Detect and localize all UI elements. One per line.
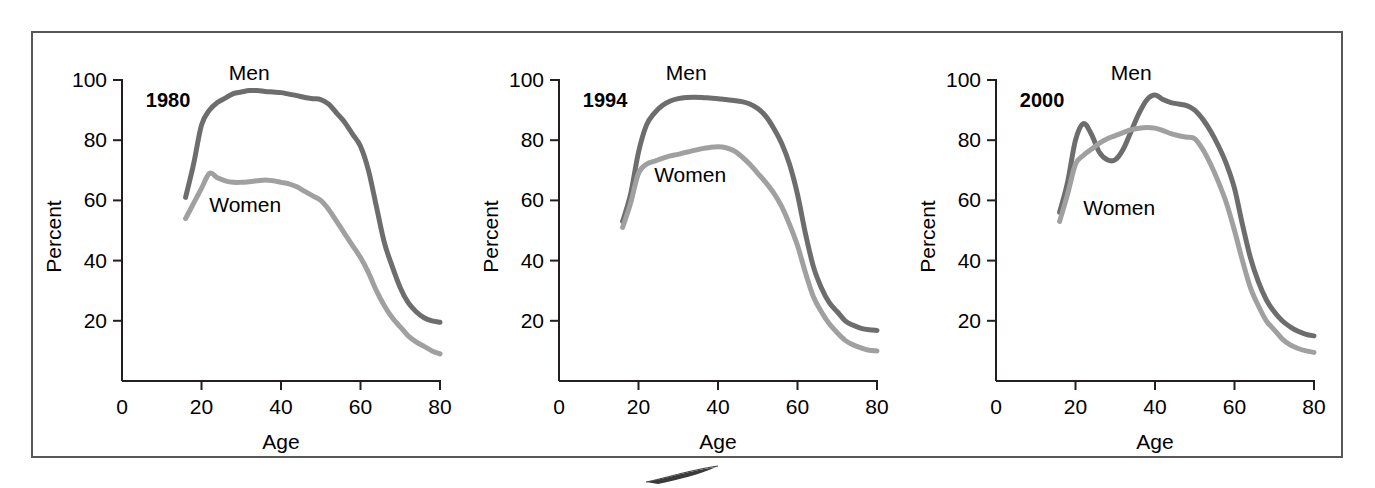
svg-text:60: 60 [1223,395,1246,418]
svg-text:20: 20 [190,395,213,418]
sr-summary: 1980 Percent vs Age: Men, Women | 1994 P… [0,0,1,1]
x-axis-label: Age [699,430,736,453]
svg-text:100: 100 [72,68,107,91]
y-axis-ticks: 20406080100 [509,68,559,332]
svg-text:0: 0 [990,395,1002,418]
svg-text:40: 40 [958,249,981,272]
chart-svg-2000: 20406080100020406080AgePercentMenWomen20… [905,31,1342,458]
legend-label-women: Women [1083,196,1155,219]
legend-label-men: Men [1111,61,1152,84]
y-axis-ticks: 20406080100 [946,68,996,332]
y-axis-label: Percent [916,200,939,273]
x-axis-ticks: 020406080 [116,381,452,418]
chart-panel-1994: 20406080100020406080AgePercentMenWomen19… [468,31,905,458]
chart-panel-2000: 20406080100020406080AgePercentMenWomen20… [905,31,1342,458]
svg-text:80: 80 [958,128,981,151]
x-axis-label: Age [1136,430,1173,453]
chart-panel-1980: 20406080100020406080AgePercentMenWomen19… [31,31,468,458]
svg-text:40: 40 [521,249,544,272]
svg-text:100: 100 [509,68,544,91]
svg-text:0: 0 [116,395,128,418]
svg-text:60: 60 [521,188,544,211]
svg-text:100: 100 [946,68,981,91]
svg-text:20: 20 [958,309,981,332]
panel-year-label: 1980 [146,89,191,111]
svg-text:80: 80 [1302,395,1325,418]
panels-container: 20406080100020406080AgePercentMenWomen19… [31,31,1343,458]
series-line-women [1060,128,1314,353]
chart-svg-1994: 20406080100020406080AgePercentMenWomen19… [468,31,905,458]
x-axis-ticks: 020406080 [553,381,889,418]
svg-text:20: 20 [521,309,544,332]
decorative-flourish-icon [640,458,730,486]
panel-year-label: 2000 [1020,89,1065,111]
x-axis-ticks: 020406080 [990,381,1326,418]
panel-year-label: 1994 [583,89,628,111]
svg-text:60: 60 [84,188,107,211]
svg-text:40: 40 [1143,395,1166,418]
svg-text:40: 40 [84,249,107,272]
svg-text:80: 80 [428,395,451,418]
svg-text:60: 60 [349,395,372,418]
x-axis-label: Age [262,430,299,453]
legend-label-men: Men [666,61,707,84]
svg-text:80: 80 [865,395,888,418]
svg-text:60: 60 [786,395,809,418]
axes [122,79,441,381]
legend-label-men: Men [229,61,270,84]
y-axis-label: Percent [479,200,502,273]
y-axis-ticks: 20406080100 [72,68,122,332]
y-axis-label: Percent [42,200,65,273]
series-line-men [623,97,877,330]
svg-text:80: 80 [521,128,544,151]
svg-text:20: 20 [627,395,650,418]
svg-text:60: 60 [958,188,981,211]
svg-text:40: 40 [706,395,729,418]
svg-text:0: 0 [553,395,565,418]
axes [996,79,1315,381]
svg-text:20: 20 [84,309,107,332]
axes [559,79,878,381]
legend-label-women: Women [209,193,281,216]
legend-label-women: Women [654,163,726,186]
figure-labor-force-participation: 20406080100020406080AgePercentMenWomen19… [0,0,1375,488]
chart-svg-1980: 20406080100020406080AgePercentMenWomen19… [31,31,468,458]
svg-text:20: 20 [1064,395,1087,418]
svg-text:40: 40 [269,395,292,418]
svg-text:80: 80 [84,128,107,151]
